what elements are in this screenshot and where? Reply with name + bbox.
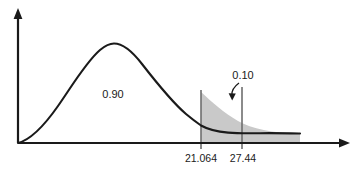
shaded-tail-region <box>201 92 300 143</box>
density-curve <box>18 44 300 144</box>
tail-area-arrowhead-icon <box>229 93 236 100</box>
left-area-label: 0.90 <box>102 88 123 100</box>
y-axis-arrowhead-icon <box>14 8 23 19</box>
x-tick-label-2744: 27.44 <box>230 152 256 164</box>
chart-canvas: 0.90 0.10 21.064 27.44 <box>0 0 359 173</box>
distribution-chart: 0.90 0.10 21.064 27.44 <box>0 0 359 173</box>
tail-area-label: 0.10 <box>232 69 253 81</box>
x-axis-arrowhead-icon <box>339 139 350 148</box>
x-tick-label-21064: 21.064 <box>185 152 217 164</box>
